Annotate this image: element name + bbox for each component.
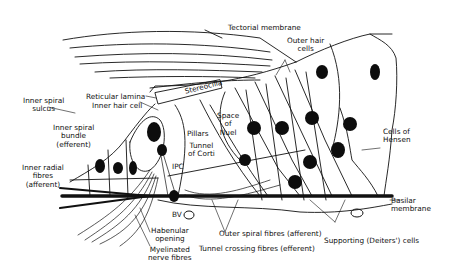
label-inner-radial-fibres: Inner radial fibres (afferent) (22, 164, 64, 189)
organ-of-corti-diagram: Tectorial membrane Outer hair cells Reti… (0, 0, 451, 272)
label-myelinated-nerve-fibres: Myelinated nerve fibres (148, 246, 192, 263)
label-inner-spiral-sulcus: Inner spiral sulcus (23, 97, 64, 114)
label-myelinated-nerve-fibres-line2: nerve fibres (148, 254, 192, 262)
label-inner-spiral-sulcus-line2: sulcus (23, 105, 64, 113)
label-inner-spiral-bundle-line3: (efferent) (53, 141, 94, 149)
label-supporting-cells: Supporting (Deiters') cells (324, 237, 419, 245)
label-pillars: Pillars (187, 130, 209, 138)
label-space-of-nuel-line3: Nuel (217, 129, 239, 137)
label-inner-radial-fibres-line3: (afferent) (22, 181, 64, 189)
label-space-of-nuel: Space of Nuel (217, 112, 239, 137)
label-outer-hair-cells-line2: cells (287, 45, 324, 53)
label-cells-of-hensen: Cells of Hensen (383, 128, 411, 145)
label-bv: BV (172, 211, 182, 219)
leader-lines (48, 60, 400, 246)
label-cells-of-hensen-line2: Hensen (383, 136, 411, 144)
blood-vessel-bv (184, 211, 194, 219)
label-basilar-membrane-line2: membrane (391, 205, 431, 213)
label-habenular-opening: Habenular opening (151, 227, 189, 244)
label-outer-spiral-fibres: Outer spiral fibres (afferent) (219, 230, 322, 238)
label-outer-hair-cells: Outer hair cells (287, 37, 324, 54)
label-inner-hair-cell: Inner hair cell (92, 102, 142, 110)
label-tectorial-membrane: Tectorial membrane (228, 24, 301, 32)
label-tunnel-of-corti: Tunnel of Corti (188, 142, 215, 159)
label-ipc: IPC (172, 163, 184, 171)
label-basilar-membrane: Basilar membrane (391, 197, 431, 214)
label-tunnel-of-corti-line2: of Corti (188, 150, 215, 158)
label-inner-spiral-bundle: Inner spiral bundle (efferent) (53, 124, 94, 149)
label-tunnel-crossing-fibres: Tunnel crossing fibres (efferent) (199, 245, 315, 253)
blood-vessel-right (351, 209, 363, 217)
label-habenular-opening-line2: opening (151, 235, 189, 243)
tectorial-membrane-shape (63, 30, 296, 92)
